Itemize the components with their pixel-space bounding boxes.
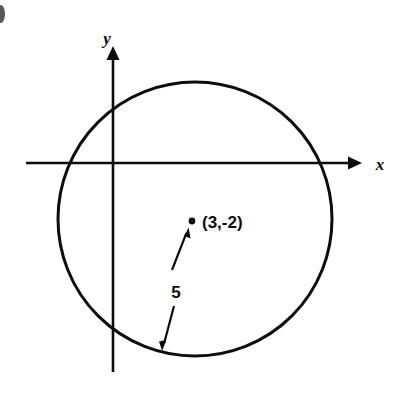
center-point-label: (3,-2) <box>202 213 243 232</box>
center-point-dot <box>189 218 196 225</box>
radius-label: 5 <box>171 283 180 302</box>
x-axis-arrowhead-icon <box>348 157 362 170</box>
y-axis-arrowhead-icon <box>107 46 120 60</box>
radius-leader-lower-line <box>164 306 174 343</box>
figure-canvas: x y (3,-2) 5 <box>0 0 403 395</box>
circle-curve <box>58 82 332 356</box>
page-edge-artifact <box>0 5 5 23</box>
x-axis-label: x <box>375 155 385 174</box>
radius-leader-lower-arrowhead-icon <box>159 340 166 351</box>
radius-leader-upper-line <box>172 233 186 270</box>
circle-diagram-svg: x y (3,-2) 5 <box>0 0 403 395</box>
y-axis-label: y <box>101 29 111 48</box>
